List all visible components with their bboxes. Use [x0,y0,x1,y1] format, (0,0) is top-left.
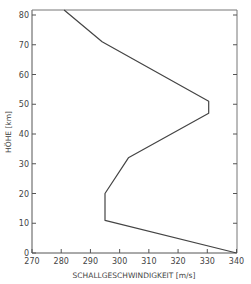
y-tick-label: 10 [19,219,29,228]
plot-frame [32,10,237,253]
y-tick-label: 0 [24,249,29,258]
x-axis-title: SCHALLGESCHWINDIGKEIT [m/s] [73,271,196,280]
x-tick-label: 330 [200,257,215,266]
x-tick-label: 320 [170,257,185,266]
y-ticks: 01020304050607080 [19,11,237,258]
y-tick-label: 30 [19,160,29,169]
y-tick-label: 80 [19,11,29,20]
x-tick-label: 290 [83,257,98,266]
x-tick-label: 270 [24,257,39,266]
y-axis-title: HÖHE [km] [4,111,13,153]
y-tick-label: 20 [19,190,29,199]
x-tick-label: 300 [112,257,127,266]
y-tick-label: 70 [19,41,29,50]
x-tick-label: 340 [229,257,244,266]
sound-speed-altitude-chart: 270280290300310320330340 010203040506070… [0,0,251,284]
x-tick-label: 280 [54,257,69,266]
y-tick-label: 60 [19,71,29,80]
x-ticks: 270280290300310320330340 [24,249,244,266]
x-tick-label: 310 [141,257,156,266]
y-tick-label: 40 [19,130,29,139]
y-tick-label: 50 [19,100,29,109]
sound-speed-profile-line [64,10,236,253]
